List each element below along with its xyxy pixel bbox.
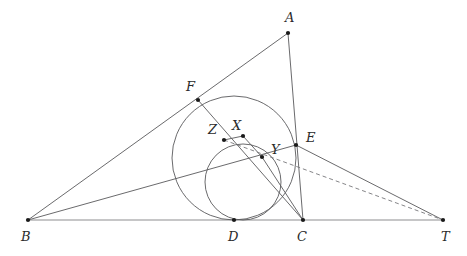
point-dot-A — [286, 31, 290, 35]
point-label-F: F — [186, 80, 195, 93]
segment-x-to-z — [224, 136, 243, 140]
point-label-B: B — [21, 230, 31, 243]
point-dot-X — [241, 134, 245, 138]
point-dot-B — [26, 218, 30, 222]
point-dot-F — [196, 98, 200, 102]
geometry-figure: A B C D E F T X Y Z — [0, 0, 467, 256]
point-dot-D — [232, 218, 236, 222]
segment-f-to-c — [198, 100, 303, 220]
point-dot-C — [301, 218, 305, 222]
segment-x-to-y — [243, 136, 262, 157]
point-label-D: D — [228, 230, 238, 243]
point-label-Y: Y — [271, 143, 280, 156]
point-label-E: E — [306, 131, 316, 144]
segment-e-to-t — [296, 145, 443, 220]
dashed-z-to-t — [224, 140, 443, 220]
point-label-Z: Z — [208, 123, 217, 136]
point-dot-T — [441, 218, 445, 222]
point-label-X: X — [232, 119, 241, 132]
point-dot-Y — [260, 155, 264, 159]
point-dot-E — [294, 143, 298, 147]
point-dot-Z — [222, 138, 226, 142]
point-label-A: A — [285, 11, 294, 24]
large-circle — [172, 96, 296, 220]
point-label-C: C — [297, 230, 307, 243]
segment-b-to-e — [28, 145, 296, 220]
segment-a-to-c — [288, 33, 303, 220]
segment-b-to-a — [28, 33, 288, 220]
point-label-T: T — [441, 230, 450, 243]
